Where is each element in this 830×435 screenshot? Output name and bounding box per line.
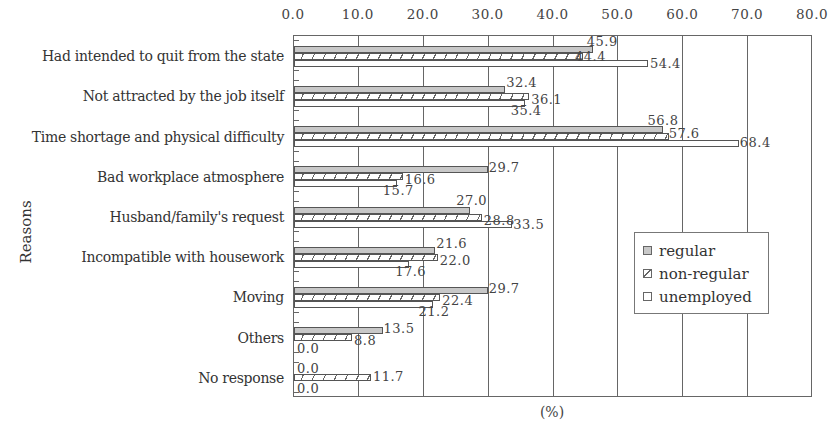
bar-nonregular bbox=[294, 173, 403, 180]
legend-label: non-regular bbox=[659, 265, 749, 283]
bar-unemployed bbox=[294, 100, 525, 107]
category-label: Time shortage and physical difficulty bbox=[32, 129, 284, 145]
category-label: Had intended to quit from the state bbox=[42, 48, 284, 64]
value-label-regular: 29.7 bbox=[489, 161, 520, 174]
value-label-unemployed: 21.2 bbox=[419, 305, 450, 318]
category-label: No response bbox=[198, 370, 284, 386]
bar-regular bbox=[294, 247, 435, 254]
x-tick-label: 30.0 bbox=[472, 6, 504, 22]
value-label-unemployed: 15.7 bbox=[383, 184, 414, 197]
value-label-nonregular: 11.7 bbox=[373, 370, 404, 383]
bar-regular bbox=[294, 126, 663, 133]
value-label-regular: 29.7 bbox=[489, 282, 520, 295]
category-label: Others bbox=[238, 330, 284, 346]
category-label: Moving bbox=[233, 289, 284, 305]
bar-nonregular bbox=[294, 214, 482, 221]
x-tick-label: 70.0 bbox=[731, 6, 763, 22]
bar-unemployed bbox=[294, 180, 397, 187]
value-label-unemployed: 33.5 bbox=[513, 218, 544, 231]
x-tick-label: 60.0 bbox=[666, 6, 698, 22]
y-axis-tick bbox=[294, 120, 299, 121]
bar-nonregular bbox=[294, 93, 529, 100]
bar-unemployed bbox=[294, 221, 512, 228]
y-axis-title: Reasons bbox=[17, 200, 35, 263]
value-label-unemployed: 0.0 bbox=[297, 382, 319, 395]
bar-regular bbox=[294, 166, 488, 173]
bar-nonregular bbox=[294, 133, 669, 140]
value-label-regular: 13.5 bbox=[384, 322, 415, 335]
y-axis-tick bbox=[294, 201, 299, 202]
x-axis-unit: (%) bbox=[540, 404, 564, 420]
y-axis-tick bbox=[294, 322, 299, 323]
category-label: Husband/family's request bbox=[110, 209, 284, 225]
bar-regular bbox=[294, 46, 593, 53]
bar-nonregular bbox=[294, 254, 438, 261]
x-tick-label: 80.0 bbox=[796, 6, 828, 22]
gridline bbox=[747, 36, 748, 396]
legend-label: regular bbox=[659, 242, 715, 260]
y-axis-tick bbox=[294, 191, 299, 192]
x-tick-label: 0.0 bbox=[282, 6, 305, 22]
value-label-unemployed: 68.4 bbox=[740, 136, 771, 149]
y-axis-tick bbox=[294, 161, 299, 162]
category-label: Incompatible with housework bbox=[81, 249, 284, 265]
category-label: Not attracted by the job itself bbox=[83, 88, 284, 104]
y-axis-tick bbox=[294, 70, 299, 71]
bar-nonregular bbox=[294, 53, 583, 60]
legend-item-unemployed: unemployed bbox=[643, 285, 760, 308]
bar-nonregular bbox=[294, 334, 352, 341]
y-axis-tick bbox=[294, 241, 299, 242]
y-axis-tick bbox=[294, 281, 299, 282]
value-label-regular: 21.6 bbox=[436, 237, 467, 250]
value-label-nonregular: 8.8 bbox=[354, 334, 376, 347]
value-label-regular: 45.9 bbox=[587, 35, 618, 48]
legend-label: unemployed bbox=[659, 288, 752, 306]
x-tick-label: 10.0 bbox=[342, 6, 374, 22]
value-label-regular: 0.0 bbox=[297, 362, 319, 375]
y-axis-tick bbox=[294, 110, 299, 111]
horizontal-bar-chart: 0.010.020.030.040.050.060.070.080.0 Had … bbox=[0, 0, 830, 435]
x-tick-label: 40.0 bbox=[536, 6, 568, 22]
unemployed-swatch-icon bbox=[643, 292, 652, 301]
y-axis-tick bbox=[294, 312, 299, 313]
bar-unemployed bbox=[294, 140, 739, 147]
nonregular-swatch-icon bbox=[643, 269, 652, 278]
category-label: Bad workplace atmosphere bbox=[97, 169, 284, 185]
bar-nonregular bbox=[294, 294, 440, 301]
value-label-unemployed: 35.4 bbox=[511, 104, 542, 117]
bar-regular bbox=[294, 207, 470, 214]
value-label-nonregular: 28.8 bbox=[484, 214, 515, 227]
y-axis-tick bbox=[294, 151, 299, 152]
y-axis-tick bbox=[294, 80, 299, 81]
value-label-nonregular: 57.6 bbox=[669, 127, 700, 140]
y-axis-tick bbox=[294, 40, 299, 41]
value-label-nonregular: 44.4 bbox=[575, 50, 606, 63]
gridline bbox=[553, 36, 554, 396]
value-label-unemployed: 0.0 bbox=[297, 342, 319, 355]
bar-unemployed bbox=[294, 301, 433, 308]
gridline bbox=[682, 36, 683, 396]
gridline bbox=[617, 36, 618, 396]
value-label-regular: 32.4 bbox=[506, 76, 537, 89]
x-tick-label: 50.0 bbox=[601, 6, 633, 22]
bar-unemployed bbox=[294, 261, 409, 268]
value-label-unemployed: 17.6 bbox=[395, 265, 426, 278]
y-axis-tick bbox=[294, 231, 299, 232]
value-label-unemployed: 54.4 bbox=[650, 57, 681, 70]
bar-regular bbox=[294, 86, 505, 93]
value-label-regular: 27.0 bbox=[456, 194, 487, 207]
y-axis-tick bbox=[294, 271, 299, 272]
legend: regularnon-regularunemployed bbox=[634, 232, 769, 314]
legend-item-regular: regular bbox=[643, 239, 760, 262]
legend-item-nonregular: non-regular bbox=[643, 262, 760, 285]
regular-swatch-icon bbox=[643, 246, 652, 255]
x-tick-label: 20.0 bbox=[407, 6, 439, 22]
value-label-nonregular: 22.0 bbox=[440, 254, 471, 267]
